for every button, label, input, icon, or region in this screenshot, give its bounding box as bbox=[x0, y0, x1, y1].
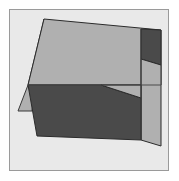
figure-canvas bbox=[10, 10, 168, 170]
lower-dark-face bbox=[28, 85, 141, 140]
figure-root bbox=[0, 0, 179, 181]
right-light-strip bbox=[141, 59, 161, 146]
shape-layer bbox=[18, 19, 161, 146]
figure-frame bbox=[9, 9, 169, 171]
